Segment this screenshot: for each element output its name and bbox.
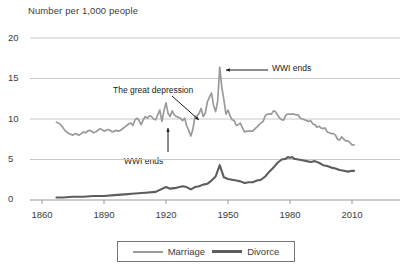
marriage-divorce-rate-chart: Number per 1,000 people 20 15 10 5 0 186… — [0, 0, 410, 271]
legend-swatch-marriage-icon — [133, 251, 163, 253]
legend-entry-divorce: Divorce — [212, 246, 279, 257]
legend-entry-marriage: Marriage — [133, 246, 206, 257]
plot-area — [0, 0, 410, 271]
legend-label-divorce: Divorce — [247, 246, 279, 257]
legend-swatch-divorce-icon — [212, 250, 242, 253]
legend-label-marriage: Marriage — [168, 246, 206, 257]
chart-legend: Marriage Divorce — [117, 241, 295, 262]
